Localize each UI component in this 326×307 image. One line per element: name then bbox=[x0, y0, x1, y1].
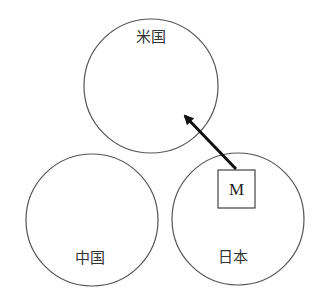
label-us: 米国 bbox=[136, 28, 166, 46]
arrow-m-to-us bbox=[185, 116, 236, 169]
label-japan: 日本 bbox=[218, 248, 248, 266]
m-box-label: M bbox=[229, 180, 244, 199]
label-china: 中国 bbox=[75, 249, 105, 267]
diagram-canvas: 米国 中国 日本 M bbox=[0, 0, 326, 307]
